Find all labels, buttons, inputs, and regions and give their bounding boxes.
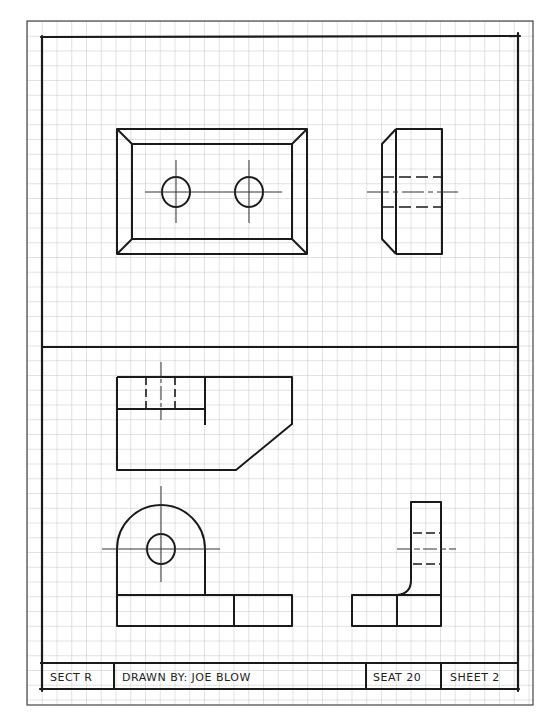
- sheet-label: SHEET 2: [450, 671, 500, 684]
- drawn-by-label: DRAWN BY: JOE BLOW: [122, 671, 251, 684]
- section-label: SECT R: [50, 671, 92, 684]
- drawing-sheet: SECT R DRAWN BY: JOE BLOW SEAT 20 SHEET …: [0, 0, 554, 726]
- graph-paper: [27, 21, 533, 705]
- seat-label: SEAT 20: [373, 671, 421, 684]
